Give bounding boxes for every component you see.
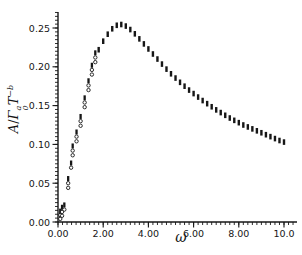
y-label-gamma: Γ: [6, 110, 21, 119]
data-point: [188, 87, 190, 93]
data-point: [260, 130, 262, 136]
data-point: [274, 136, 276, 142]
data-point-dash: [67, 176, 69, 181]
plot-canvas: 0.002.004.006.008.0010.00.000.050.100.15…: [0, 0, 302, 255]
y-tick-label: 0.05: [29, 178, 50, 189]
data-point: [278, 138, 280, 144]
data-point: [269, 134, 271, 140]
data-point: [233, 118, 235, 124]
data-point-circle: [94, 56, 97, 59]
data-point-dash: [84, 95, 86, 100]
data-point: [197, 94, 199, 100]
y-tick-label: 0.00: [29, 217, 50, 228]
data-point: [247, 124, 249, 130]
data-point: [256, 128, 258, 134]
data-point-circle: [83, 105, 86, 108]
data-point: [179, 80, 181, 86]
data-point: [134, 31, 136, 37]
y-axis-label: A/Γa0T−b: [6, 63, 24, 155]
x-tick-label: 2.00: [93, 228, 114, 239]
data-point: [120, 22, 122, 28]
data-point: [220, 110, 222, 116]
data-point-circle: [60, 214, 63, 217]
x-axis-label: ω: [168, 229, 194, 245]
y-label-t-sup: −b: [6, 85, 15, 97]
data-point-circle: [79, 119, 82, 122]
y-tick-label: 0.25: [29, 23, 50, 34]
data-point: [111, 26, 113, 32]
data-point: [251, 126, 253, 132]
y-label-gamma-sub: 0: [23, 105, 30, 110]
data-point-circle: [71, 154, 74, 157]
data-point-circle: [75, 135, 78, 138]
data-point: [147, 46, 149, 52]
data-point-circle: [75, 140, 78, 143]
x-tick-label: 10.0: [273, 228, 294, 239]
y-label-slash: /: [6, 119, 21, 123]
data-point: [183, 83, 185, 89]
data-point-dash: [70, 161, 72, 166]
data-point: [138, 36, 140, 42]
x-tick-label: 8.00: [228, 228, 249, 239]
y-label-gamma-scripts: a0: [16, 105, 29, 110]
data-point-dash: [94, 50, 96, 55]
data-point-dash: [72, 143, 74, 148]
data-point: [174, 75, 176, 81]
data-point: [156, 56, 158, 62]
data-point: [265, 132, 267, 138]
data-point-circle: [90, 73, 93, 76]
data-point-circle: [63, 208, 66, 211]
data-point-circle: [90, 68, 93, 71]
data-point-dash: [87, 78, 89, 83]
data-point: [229, 115, 231, 121]
data-point: [152, 51, 154, 57]
data-point: [143, 41, 145, 47]
data-point-circle: [83, 101, 86, 104]
data-point: [170, 71, 172, 77]
y-label-t: T: [6, 97, 21, 106]
data-point: [102, 38, 104, 44]
data-point: [125, 23, 127, 29]
data-point-dash: [79, 114, 81, 119]
data-point-circle: [71, 149, 74, 152]
y-tick-label: 0.20: [29, 61, 50, 72]
y-tick-label: 0.15: [29, 100, 50, 111]
data-point: [107, 31, 109, 37]
data-point: [238, 120, 240, 126]
data-point-dash: [75, 129, 77, 134]
data-point: [165, 66, 167, 72]
data-point-circle: [87, 88, 90, 91]
x-tick-label: 4.00: [138, 228, 159, 239]
data-point-circle: [69, 166, 72, 169]
data-point: [242, 122, 244, 128]
data-point: [283, 139, 285, 145]
data-point: [206, 101, 208, 107]
data-point: [215, 107, 217, 113]
data-point: [129, 27, 131, 33]
data-point-circle: [66, 186, 69, 189]
data-point-dash: [63, 202, 65, 207]
data-point: [116, 22, 118, 28]
data-point-circle: [79, 124, 82, 127]
data-point: [97, 47, 99, 53]
data-point: [201, 98, 203, 104]
scatter-figure: 0.002.004.006.008.0010.00.000.050.100.15…: [0, 0, 302, 255]
data-point: [210, 104, 212, 110]
data-point-circle: [66, 182, 69, 185]
data-point: [224, 113, 226, 119]
data-point: [192, 91, 194, 97]
data-point-circle: [87, 84, 90, 87]
data-point: [161, 61, 163, 67]
y-tick-label: 0.10: [29, 139, 50, 150]
data-point-circle: [94, 60, 97, 63]
y-label-numerator: A: [6, 124, 21, 133]
x-tick-label: 0.00: [47, 228, 68, 239]
data-point-dash: [91, 63, 93, 68]
